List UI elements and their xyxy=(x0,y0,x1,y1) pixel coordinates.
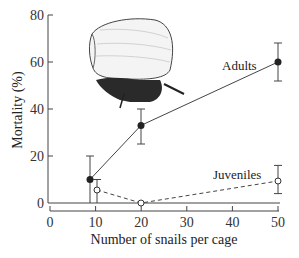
series-juveniles: Juveniles xyxy=(93,165,282,206)
y-tick-20: 20 xyxy=(30,149,44,164)
juveniles-point-10 xyxy=(94,187,100,193)
x-axis: 0 10 20 30 40 50 Number of snails per ca… xyxy=(47,206,286,247)
juveniles-point-50 xyxy=(275,178,281,184)
y-axis: 80 60 40 20 0 Mortality (%) xyxy=(10,8,53,211)
mortality-chart: 80 60 40 20 0 Mortality (%) 0 10 20 30 4… xyxy=(0,0,299,258)
adults-point-20 xyxy=(138,122,145,129)
adults-label: Adults xyxy=(222,58,257,73)
y-tick-40: 40 xyxy=(30,102,44,117)
x-tick-30: 30 xyxy=(180,215,194,230)
x-axis-title: Number of snails per cage xyxy=(91,232,238,247)
juveniles-label: Juveniles xyxy=(213,167,261,182)
x-tick-20: 20 xyxy=(134,215,148,230)
y-tick-0: 0 xyxy=(37,196,44,211)
adults-point-50 xyxy=(275,59,282,66)
y-tick-80: 80 xyxy=(30,8,44,23)
juveniles-point-20 xyxy=(138,200,144,206)
x-tick-0: 0 xyxy=(47,215,54,230)
snail-illustration-icon xyxy=(89,19,184,108)
x-tick-50: 50 xyxy=(271,215,285,230)
y-axis-title: Mortality (%) xyxy=(10,71,26,149)
y-tick-60: 60 xyxy=(30,55,44,70)
x-tick-10: 10 xyxy=(89,215,103,230)
x-tick-40: 40 xyxy=(225,215,239,230)
adults-point-10 xyxy=(87,176,94,183)
